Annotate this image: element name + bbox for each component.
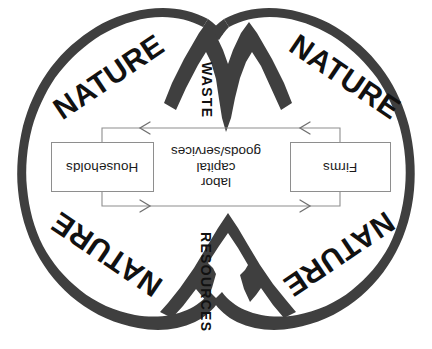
diagram-canvas: Households Firms labor capital goods/ser… [0, 0, 432, 349]
households-node: Households [51, 142, 154, 192]
flow-items-list: labor capital goods/services [146, 136, 286, 198]
flow-item-capital: capital [196, 159, 235, 174]
firms-label: Firms [323, 160, 357, 175]
resources-arrow-label: RESOURCES [198, 232, 214, 332]
waste-arrow-label: WASTE [199, 62, 215, 118]
flow-item-goods-services: goods/services [171, 144, 261, 159]
households-label: Households [66, 160, 138, 175]
firms-node: Firms [290, 142, 391, 192]
flow-item-labor: labor [201, 175, 231, 190]
